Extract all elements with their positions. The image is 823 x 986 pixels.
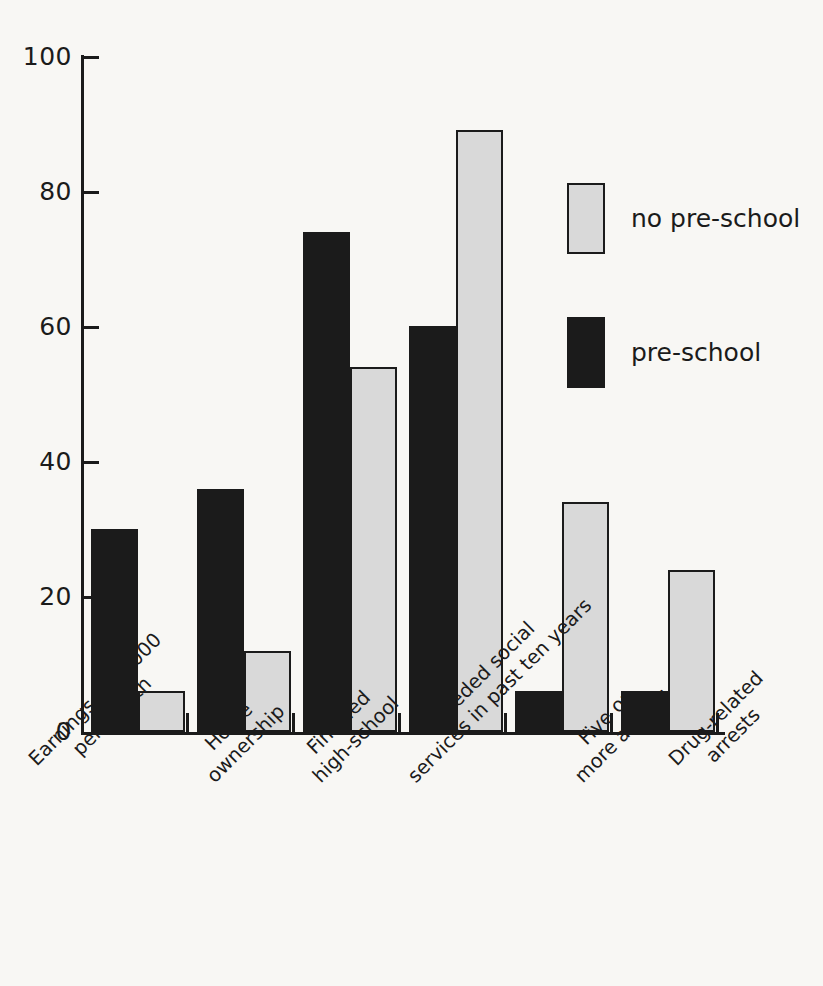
bar-no-preschool-6[interactable] <box>668 570 715 732</box>
bar-chart: 100 80 60 40 20 0 <box>0 0 823 986</box>
legend-swatch-preschool-icon <box>567 317 605 388</box>
legend-label-no-preschool: no pre-school <box>631 206 800 231</box>
bar-preschool-5[interactable] <box>515 691 562 732</box>
legend-swatch-no-preschool-icon <box>567 183 605 254</box>
legend-label-preschool: pre-school <box>631 340 761 365</box>
bar-preschool-4[interactable] <box>409 326 456 732</box>
bar-preschool-2[interactable] <box>197 489 244 732</box>
bar-preschool-3[interactable] <box>303 232 350 732</box>
chart-page: 100 80 60 40 20 0 <box>0 0 823 986</box>
bar-no-preschool-4[interactable] <box>456 130 503 732</box>
legend-entry-no-preschool[interactable]: no pre-school <box>567 183 800 254</box>
legend-entry-preschool[interactable]: pre-school <box>567 317 761 388</box>
